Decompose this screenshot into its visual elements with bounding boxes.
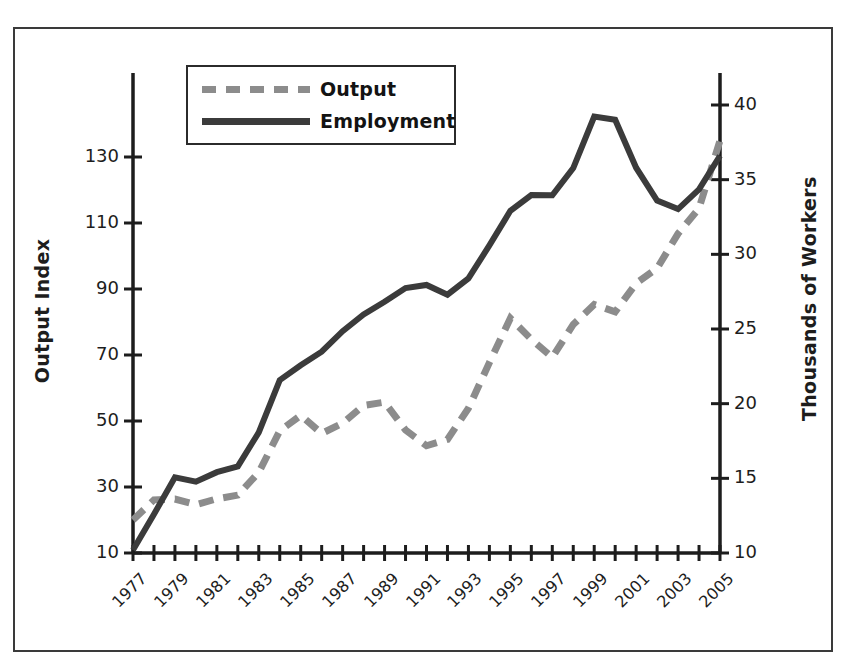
left-tick-label: 110 xyxy=(73,211,119,232)
left-tick-label: 70 xyxy=(73,343,119,364)
legend-label-output: Output xyxy=(320,78,396,100)
right-tick-label: 40 xyxy=(734,93,780,114)
right-tick-label: 10 xyxy=(734,541,780,562)
left-axis-title: Output Index xyxy=(31,231,53,391)
legend-label-employment: Employment xyxy=(320,110,456,132)
axis-lines xyxy=(133,73,720,553)
left-tick-label: 30 xyxy=(73,475,119,496)
right-tick-label: 35 xyxy=(734,168,780,189)
legend-swatch-output-icon xyxy=(202,86,310,93)
legend-item-output: Output xyxy=(202,75,396,103)
left-tick-label: 90 xyxy=(73,277,119,298)
right-tick-label: 30 xyxy=(734,242,780,263)
right-tick-label: 25 xyxy=(734,317,780,338)
left-tick-label: 130 xyxy=(73,145,119,166)
data-series xyxy=(133,117,720,550)
chart-legend: Output Employment xyxy=(186,65,456,145)
series-line-output xyxy=(133,141,720,521)
chart-page: Output Index Thousands of Workers 103050… xyxy=(0,0,847,672)
legend-item-employment: Employment xyxy=(202,107,456,135)
left-tick-label: 50 xyxy=(73,409,119,430)
series-line-employment xyxy=(133,117,720,550)
left-tick-label: 10 xyxy=(73,541,119,562)
right-tick-label: 15 xyxy=(734,466,780,487)
right-axis-title: Thousands of Workers xyxy=(798,201,820,421)
legend-swatch-employment-icon xyxy=(202,118,310,125)
right-tick-label: 20 xyxy=(734,392,780,413)
